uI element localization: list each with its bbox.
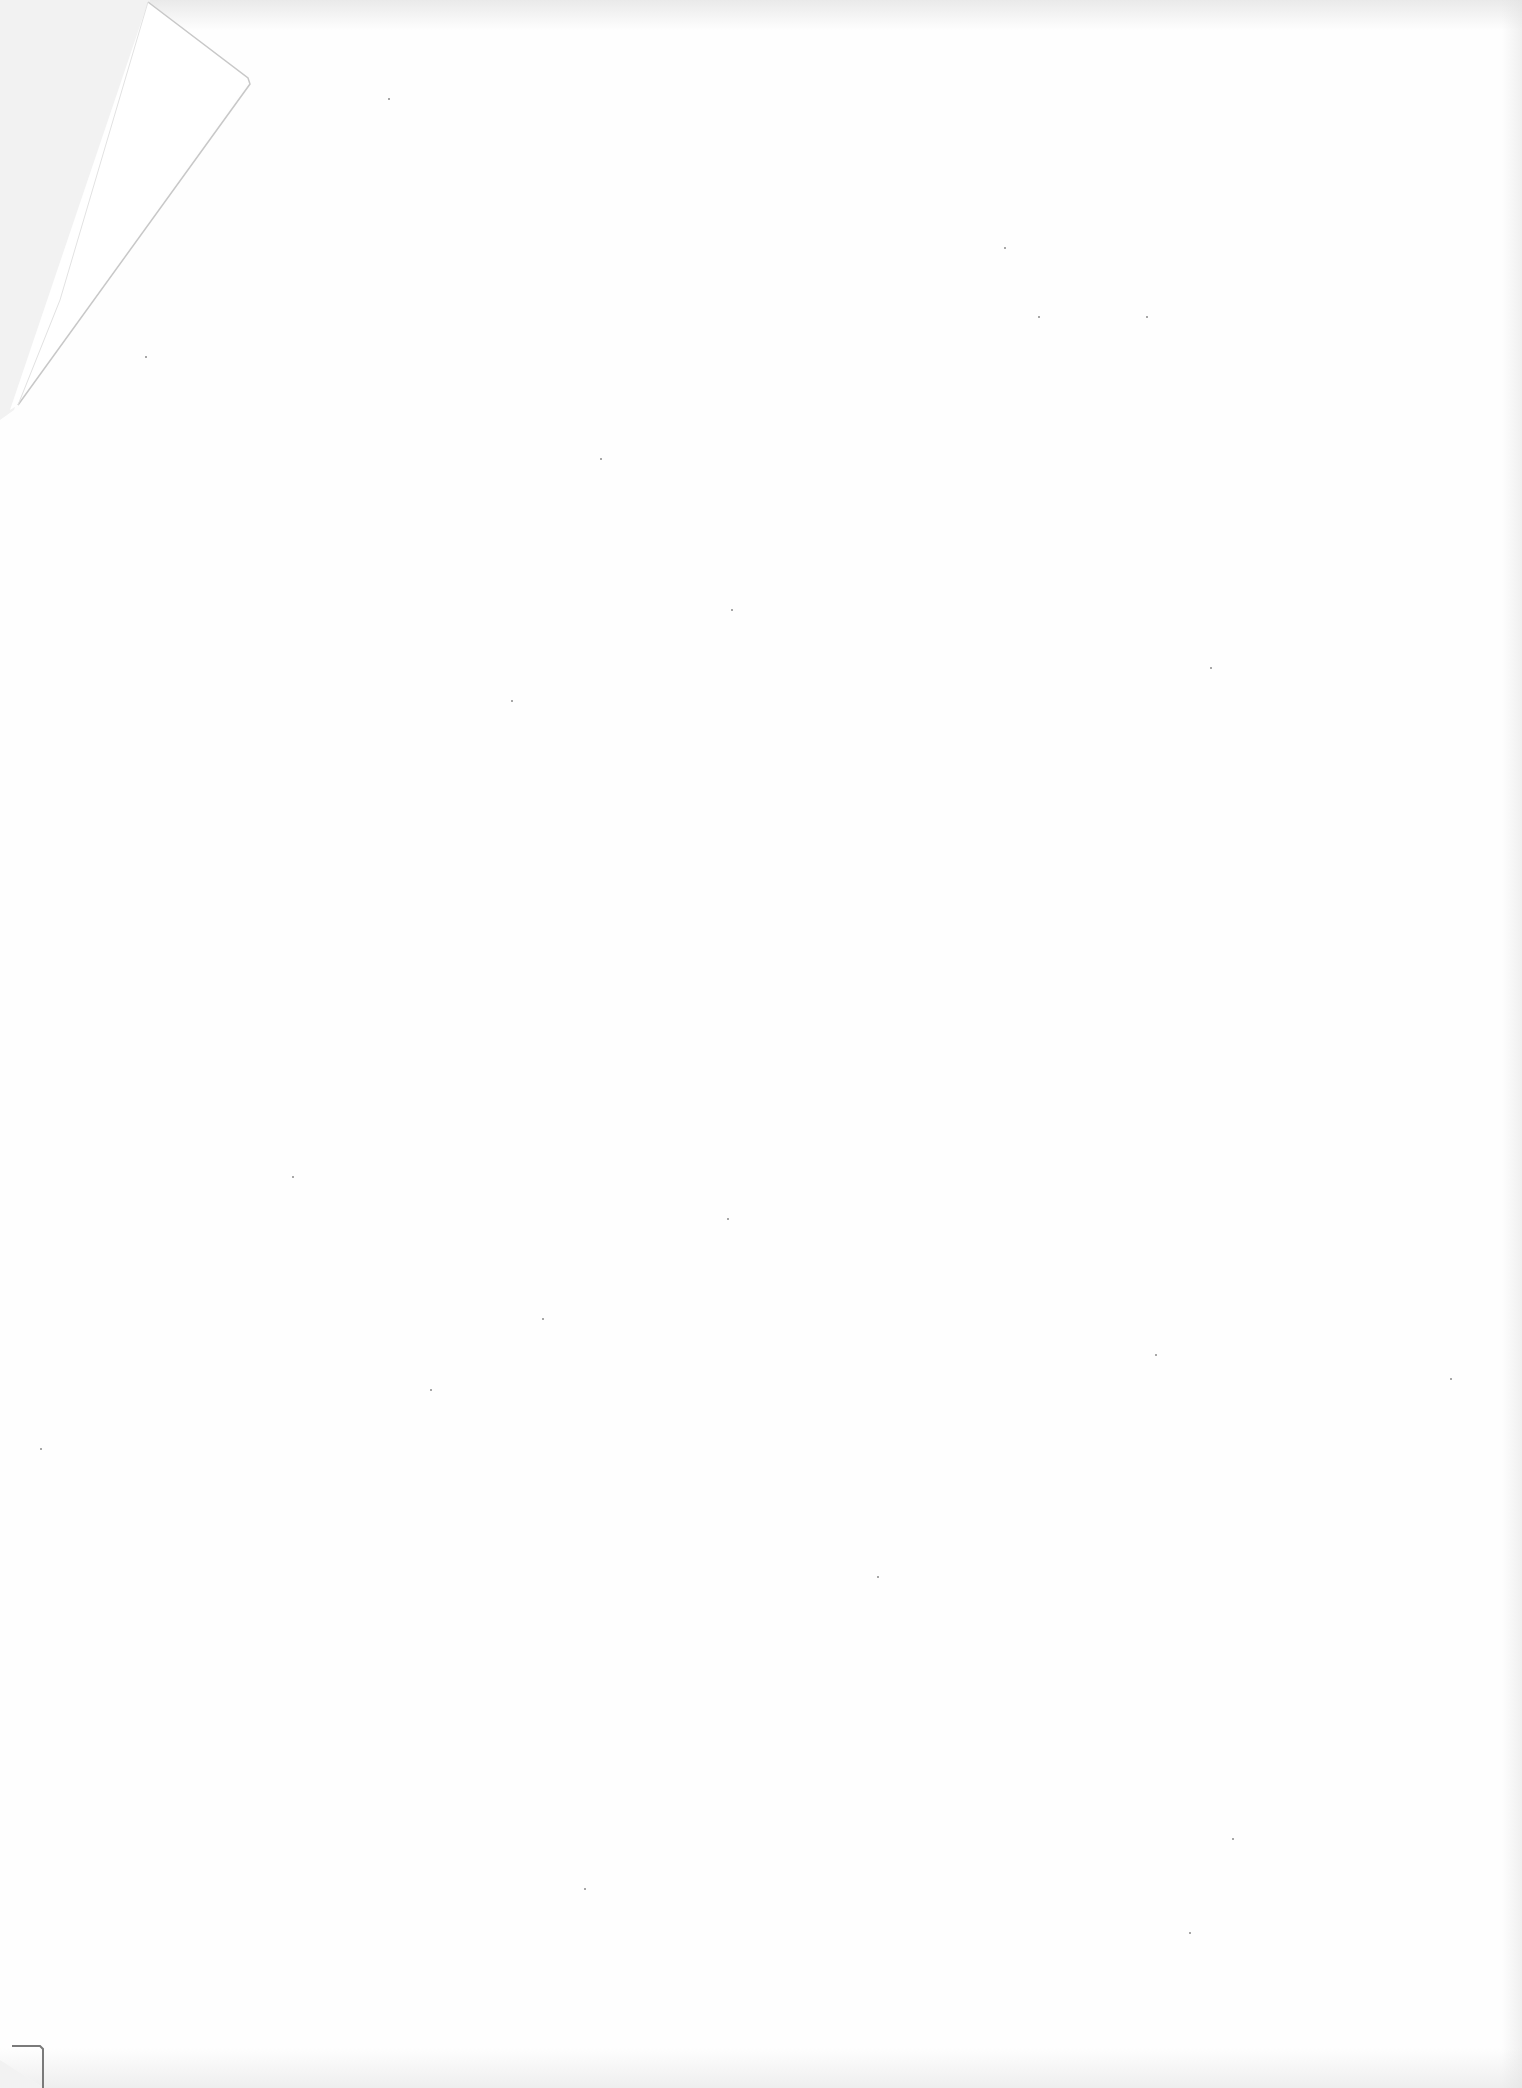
scan-speck <box>727 1218 729 1220</box>
scan-speck <box>600 458 602 460</box>
scan-speck <box>40 1448 42 1450</box>
scan-speck <box>430 1389 432 1391</box>
scan-speck <box>877 1576 879 1578</box>
scan-speck <box>1038 316 1040 318</box>
scan-speck <box>511 700 513 702</box>
scan-speck <box>731 609 733 611</box>
scan-speck <box>292 1176 294 1178</box>
scan-speck <box>1155 1354 1157 1356</box>
scan-speck <box>1189 1932 1191 1934</box>
bottom-edge-shadow <box>0 2048 1522 2088</box>
scan-speck <box>1004 247 1006 249</box>
corner-bracket-icon <box>0 2040 60 2088</box>
scan-speck <box>388 98 390 100</box>
scan-speck <box>542 1318 544 1320</box>
scan-speck <box>584 1888 586 1890</box>
scan-speck <box>1450 1378 1452 1380</box>
right-edge-shadow <box>1502 0 1522 2088</box>
scan-speck <box>1146 316 1148 318</box>
folded-corner-icon <box>0 0 260 420</box>
scan-speck <box>1210 667 1212 669</box>
scan-speck <box>1232 1838 1234 1840</box>
